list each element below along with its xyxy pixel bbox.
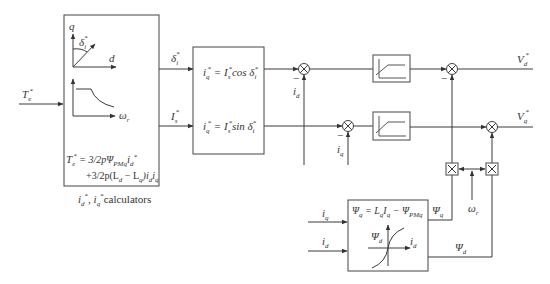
q-current-summing-junction (343, 121, 354, 132)
minus-sign-vd: − (441, 72, 447, 84)
id-feedback-label: id (293, 85, 300, 100)
q-current-controller-block (373, 112, 410, 140)
minus-sign-d: − (293, 72, 299, 84)
id-flux-input-label: id (322, 235, 329, 250)
iq-flux-input-label: iq (322, 207, 329, 222)
minus-sign-q: − (337, 129, 343, 141)
control-block-diagram: Te* q d δi* ωr Te* = 3/2pΨPMqid* +3/2p(L… (0, 0, 550, 284)
multiplier-q (486, 163, 498, 175)
vq-summing-junction (487, 122, 498, 133)
current-reference-calculator-block: q d δi* ωr Te* = 3/2pΨPMqid* +3/2p(Ld − … (64, 15, 159, 208)
iq-feedback-label: iq (337, 143, 344, 158)
d-current-summing-junction (299, 64, 310, 75)
q-axis-label: q (69, 20, 75, 32)
torque-reference-input: Te* (19, 87, 63, 104)
d-current-controller-block (373, 55, 410, 82)
d-axis-label: d (109, 52, 115, 64)
psi-d-output-label: Ψd (455, 241, 467, 256)
vd-summing-junction (447, 64, 458, 75)
multiplier-d (446, 163, 458, 175)
omega-input-label: ωr (468, 202, 479, 217)
torque-input-label: Te* (22, 87, 33, 103)
is-signal-label: Is* (170, 108, 179, 125)
polar-to-dq-transform-block: iq* = Is*cos δi* iq* = Is*sin δi* (193, 47, 264, 154)
psi-q-output-label: Ψq (432, 204, 444, 219)
vq-output-label: Vq* (517, 108, 529, 125)
transform-box (193, 47, 264, 154)
calculator-caption: id*, iq*calculators (78, 192, 151, 208)
vd-output-label: Vd* (517, 51, 529, 68)
delta-signal-label: δi* (171, 50, 180, 67)
flux-estimator-block: Ψq = LqIq − ΨPMq Ψd id (348, 200, 428, 271)
